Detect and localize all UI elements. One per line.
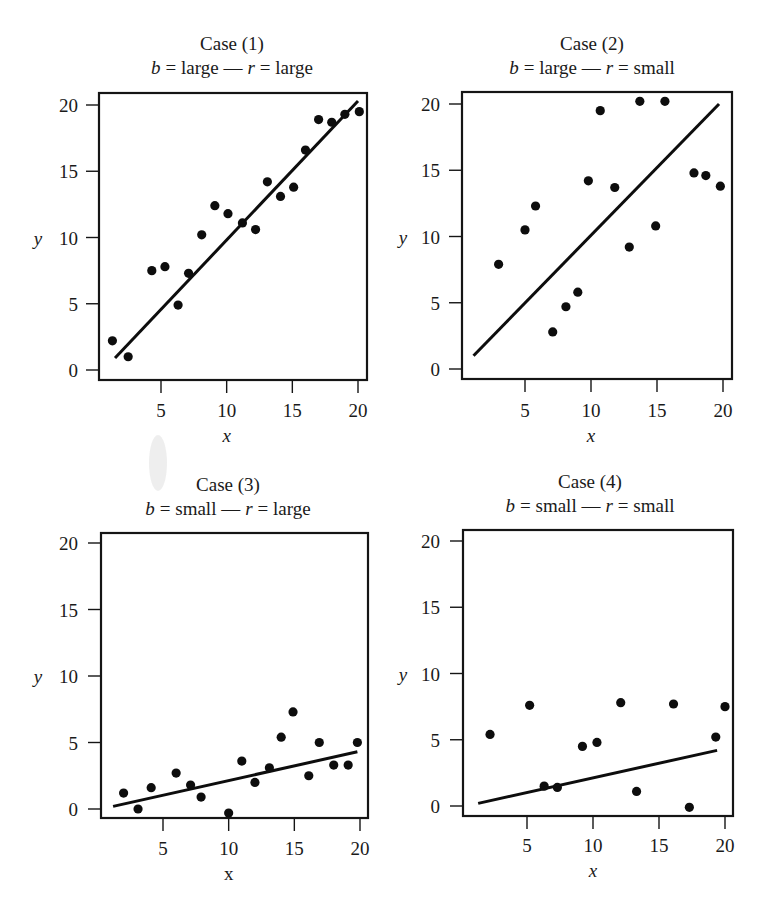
data-point (355, 107, 364, 116)
figure-four-scatter-panels: Case (1) b= large —r= large 051015205101… (0, 0, 771, 918)
data-point (288, 707, 297, 716)
panel-title: Case (2) (560, 33, 624, 55)
data-point (238, 218, 247, 227)
data-point (578, 742, 587, 751)
data-point (494, 260, 503, 269)
data-point (660, 97, 669, 106)
panel-case-3: Case (3) b= small —r= large 051015205101… (32, 474, 370, 884)
subtitle-r-value: = large (260, 57, 313, 78)
y-tick-label: 10 (59, 228, 78, 249)
panel-subtitle: b= small —r= small (506, 495, 675, 516)
data-point (173, 300, 182, 309)
data-point (553, 783, 562, 792)
y-tick-label: 0 (431, 359, 441, 380)
subtitle-r-value: = large (258, 498, 311, 519)
subtitle-b-symbol: b (509, 57, 519, 78)
data-point (340, 110, 349, 119)
plot-frame (463, 530, 733, 816)
x-tick-label: 15 (648, 400, 667, 421)
data-point (289, 183, 298, 192)
data-point (301, 145, 310, 154)
y-axis-label: y (397, 664, 408, 685)
data-point (124, 352, 133, 361)
subtitle-r-symbol: r (247, 57, 255, 78)
data-point (685, 803, 694, 812)
axis-ticks: 051015205101520 (59, 95, 368, 421)
data-point (196, 792, 205, 801)
data-point (669, 699, 678, 708)
y-tick-label: 15 (421, 597, 440, 618)
y-tick-label: 0 (431, 796, 441, 817)
data-point (485, 730, 494, 739)
data-point (251, 225, 260, 234)
x-tick-label: 5 (158, 838, 168, 859)
data-point (584, 176, 593, 185)
panel-title: Case (4) (558, 471, 622, 493)
data-point (265, 763, 274, 772)
panel-title: Case (1) (200, 33, 264, 55)
x-tick-label: 10 (584, 835, 603, 856)
subtitle-b-value: = small — (520, 495, 601, 516)
data-point (561, 302, 570, 311)
data-point (651, 221, 660, 230)
x-tick-label: 20 (349, 400, 368, 421)
data-point (344, 761, 353, 770)
data-point (133, 804, 142, 813)
subtitle-b-symbol: b (506, 495, 516, 516)
y-tick-label: 15 (421, 160, 440, 181)
y-tick-label: 20 (59, 533, 78, 554)
x-tick-label: 10 (217, 400, 236, 421)
y-tick-label: 15 (59, 161, 78, 182)
y-tick-label: 20 (421, 531, 440, 552)
x-tick-label: 20 (351, 838, 370, 859)
y-axis-label: y (32, 666, 43, 687)
subtitle-r-value: = small (618, 495, 675, 516)
y-tick-label: 0 (69, 360, 79, 381)
data-point (353, 738, 362, 747)
x-axis-label: x (224, 863, 234, 884)
y-tick-label: 5 (69, 733, 79, 754)
data-point (172, 768, 181, 777)
y-axis-label: y (32, 228, 43, 249)
data-point (197, 230, 206, 239)
data-point (329, 761, 338, 770)
data-point (596, 106, 605, 115)
data-point (184, 269, 193, 278)
data-point (540, 782, 549, 791)
data-point (237, 757, 246, 766)
data-point (625, 243, 634, 252)
regression-line (474, 104, 720, 356)
subtitle-b-symbol: b (151, 57, 161, 78)
x-tick-label: 5 (520, 400, 530, 421)
y-tick-label: 0 (69, 799, 79, 820)
x-axis-label: x (588, 860, 598, 881)
data-points (119, 707, 362, 817)
data-point (160, 262, 169, 271)
subtitle-b-value: = large — (524, 57, 602, 78)
x-tick-label: 10 (582, 400, 601, 421)
data-point (610, 183, 619, 192)
data-point (616, 698, 625, 707)
data-point (315, 738, 324, 747)
data-point (276, 192, 285, 201)
y-tick-label: 20 (421, 94, 440, 115)
data-point (635, 97, 644, 106)
subtitle-b-symbol: b (145, 498, 155, 519)
panel-case-1: Case (1) b= large —r= large 051015205101… (32, 33, 368, 446)
data-point (573, 288, 582, 297)
data-point (119, 788, 128, 797)
subtitle-r-symbol: r (605, 495, 613, 516)
data-point (250, 778, 259, 787)
axis-ticks: 051015205101520 (421, 94, 733, 421)
plot-frame (462, 92, 732, 379)
y-tick-label: 5 (431, 293, 441, 314)
panel-subtitle: b= large —r= small (509, 57, 674, 78)
panel-title: Case (3) (196, 474, 260, 496)
data-point (263, 177, 272, 186)
data-point (147, 783, 156, 792)
x-tick-label: 15 (283, 400, 302, 421)
data-point (716, 182, 725, 191)
data-point (147, 266, 156, 275)
data-point (520, 225, 529, 234)
panel-case-4: Case (4) b= small —r= small 051015205101… (397, 471, 735, 881)
